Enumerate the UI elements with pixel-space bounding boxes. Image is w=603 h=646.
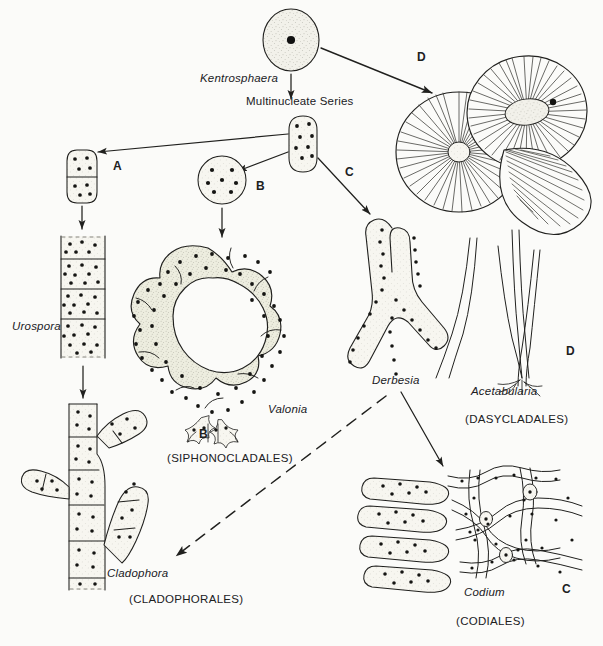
label-derbesia: Derbesia (372, 375, 420, 387)
order-codiales: (CODIALES) (456, 616, 525, 628)
derbesia-thallus (348, 219, 448, 376)
branch-b-cell (198, 156, 246, 204)
acetabularia-thallus (396, 48, 594, 396)
valonia-thallus (131, 246, 286, 448)
label-urospora: Urospora (12, 321, 61, 333)
order-cladophorales: (CLADOPHORALES) (129, 594, 243, 606)
codium-thallus (358, 466, 582, 593)
branch-label-d2: D (566, 345, 575, 357)
order-dasycladales: (DASYCLADALES) (465, 414, 568, 426)
cladophora-thallus (21, 404, 148, 590)
branch-label-c2: C (562, 583, 571, 595)
kentrosphaera-cell (263, 9, 319, 71)
figure-canvas: Kentrosphaera Multinucleate Series A B C… (0, 0, 603, 646)
label-kentrosphaera: Kentrosphaera (200, 73, 278, 85)
label-codium: Codium (464, 587, 505, 599)
hub-multinucleate-cell (289, 116, 317, 172)
branch-label-d: D (417, 51, 426, 63)
order-siphonocladales: (SIPHONOCLADALES) (167, 453, 293, 465)
branch-label-a: A (113, 160, 122, 172)
label-multinucleate-series: Multinucleate Series (246, 96, 354, 108)
branch-label-c: C (345, 166, 354, 178)
branch-a-cell (67, 150, 97, 203)
label-valonia: Valonia (268, 404, 307, 416)
branch-label-b: B (256, 180, 265, 192)
branch-label-b2: B (199, 428, 208, 440)
acetabularia-cap-lower (500, 148, 591, 234)
urospora-filament (61, 236, 105, 358)
label-acetabularia: Acetabularia (471, 386, 537, 398)
label-cladophora: Cladophora (107, 568, 168, 580)
